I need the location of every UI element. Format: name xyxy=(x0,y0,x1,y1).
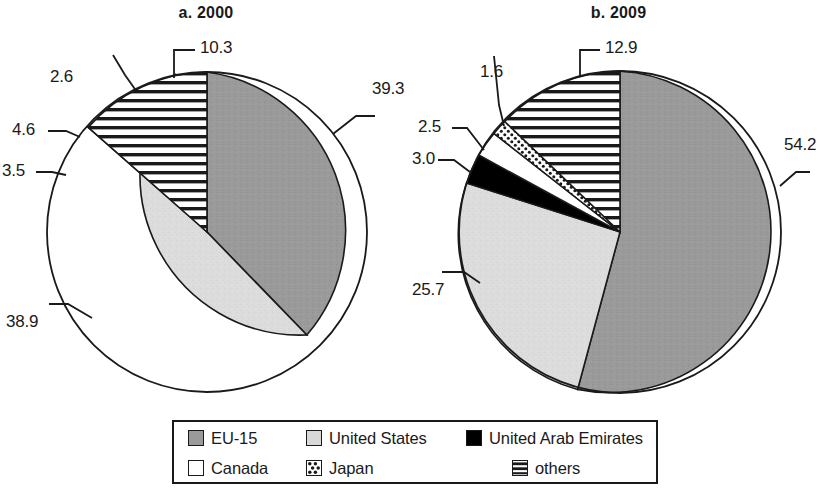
legend-swatch-eu-icon xyxy=(188,430,204,446)
legend-label-us: United States xyxy=(329,429,427,448)
panel-2009: b. 2009 xyxy=(412,0,825,410)
pie-b-leader-eu xyxy=(780,172,810,186)
legend-swatch-canada-icon xyxy=(188,460,204,476)
pie-b-leader-canada xyxy=(452,128,484,150)
pie-b-label-japan: 1.6 xyxy=(480,62,503,82)
pie-b-graphic xyxy=(412,0,825,410)
panel-2000: a. 2000 xyxy=(0,0,412,410)
legend-label-eu: EU-15 xyxy=(211,429,257,448)
pie-b-label-eu: 54.2 xyxy=(784,135,816,155)
pie-a-graphic xyxy=(0,0,412,410)
legend-swatch-others-icon xyxy=(512,460,528,476)
legend-item-canada[interactable]: Canada xyxy=(188,459,306,478)
legend-swatch-uae-icon xyxy=(466,430,482,446)
pie-b-leader-uae xyxy=(438,160,470,172)
pie-a-label-eu: 39.3 xyxy=(372,79,404,99)
legend-item-us[interactable]: United States xyxy=(306,429,466,448)
legend-item-japan[interactable]: Japan xyxy=(306,459,466,478)
pie-a-leader-japan xyxy=(113,55,137,92)
legend-swatch-us-icon xyxy=(306,430,322,446)
pie-a-leader-canada xyxy=(48,131,80,137)
pie-b-label-others: 12.9 xyxy=(605,38,637,58)
legend-label-japan: Japan xyxy=(329,459,373,478)
pie-a-label-us: 38.9 xyxy=(6,312,38,332)
legend-item-eu[interactable]: EU-15 xyxy=(188,429,306,448)
pie-a-leader-eu xyxy=(333,116,375,134)
legend-item-others[interactable]: others xyxy=(512,459,580,478)
legend-swatch-japan-icon xyxy=(306,460,322,476)
legend-row-2: Canada Japan xyxy=(174,453,656,483)
pie-b-label-uae: 3.0 xyxy=(412,149,435,169)
pie-a-label-canada: 4.6 xyxy=(12,120,35,140)
legend-item-uae[interactable]: United Arab Emirates xyxy=(466,429,643,448)
legend: EU-15 United States United Arab Emirates… xyxy=(172,420,658,484)
pie-b-label-canada: 2.5 xyxy=(418,117,441,137)
pie-a-label-uae: 3.5 xyxy=(2,161,25,181)
pie-chart-figure: a. 2000 xyxy=(0,0,825,490)
pie-b-label-us: 25.7 xyxy=(412,280,444,300)
legend-label-canada: Canada xyxy=(211,459,268,478)
legend-row-1: EU-15 United States United Arab Emirates xyxy=(174,423,656,453)
legend-label-others: others xyxy=(535,459,580,478)
pie-a-label-others: 10.3 xyxy=(200,38,232,58)
legend-label-uae: United Arab Emirates xyxy=(489,429,643,448)
pie-a-label-japan: 2.6 xyxy=(50,67,73,87)
pie-a-leader-uae xyxy=(36,172,66,175)
